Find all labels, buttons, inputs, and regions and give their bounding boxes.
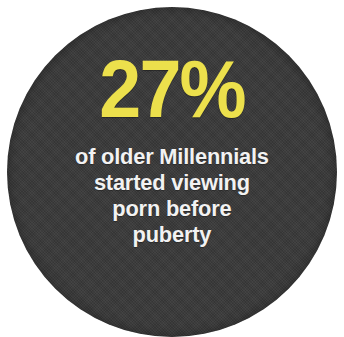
stat-description-line-1: of older Millennials xyxy=(75,144,269,170)
stat-description-line-4: puberty xyxy=(75,222,269,248)
stat-description-line-2: started viewing xyxy=(75,170,269,196)
stat-description-line-3: porn before xyxy=(75,196,269,222)
stat-description: of older Millennials started viewing por… xyxy=(75,144,269,248)
stat-percentage-value: 27% xyxy=(99,48,244,130)
